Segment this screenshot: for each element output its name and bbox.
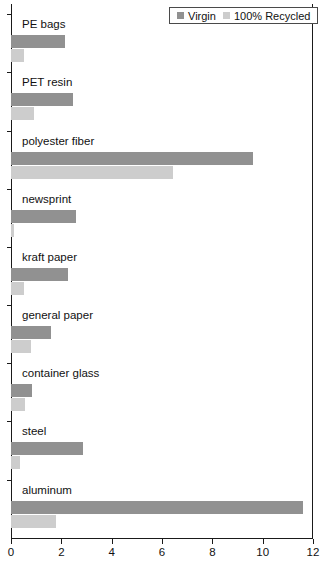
x-axis-tick [263, 539, 264, 544]
bar-group: kraft paper [11, 251, 313, 297]
bar-recycled [11, 340, 31, 353]
bar-recycled [11, 398, 25, 411]
bar-virgin [11, 501, 303, 514]
y-axis-tick [7, 189, 11, 190]
x-axis-ticks [11, 539, 313, 545]
bar-recycled [11, 49, 24, 62]
bar-group: newsprint [11, 193, 313, 239]
y-axis-tick [7, 305, 11, 306]
category-label: PE bags [22, 18, 65, 31]
bar-group: aluminum [11, 484, 313, 530]
legend-label-virgin: Virgin [188, 10, 216, 22]
chart-legend: Virgin 100% Recycled [169, 7, 318, 24]
x-axis-tick [11, 539, 12, 544]
y-axis-tick [7, 72, 11, 73]
y-axis-tick [7, 131, 11, 132]
bar-virgin [11, 210, 76, 223]
y-axis-tick [7, 14, 11, 15]
category-label: steel [22, 425, 46, 438]
y-axis-tick [7, 363, 11, 364]
x-axis-tick [313, 539, 314, 544]
x-axis-tick [61, 539, 62, 544]
bar-recycled [11, 224, 14, 237]
bar-virgin [11, 93, 73, 106]
category-label: newsprint [22, 193, 71, 206]
x-axis-tick-label: 4 [108, 546, 114, 558]
bar-group: PET resin [11, 76, 313, 122]
x-axis-tick-label: 10 [256, 546, 269, 558]
x-axis-tick [212, 539, 213, 544]
x-axis-tick-label: 8 [209, 546, 215, 558]
category-label: PET resin [22, 76, 72, 89]
y-axis-tick [7, 421, 11, 422]
legend-swatch-virgin [177, 12, 184, 19]
bar-virgin [11, 326, 51, 339]
category-label: polyester fiber [22, 135, 94, 148]
bar-virgin [11, 35, 65, 48]
plot-area: PE bagsPET resinpolyester fibernewsprint… [11, 4, 313, 539]
bar-group: general paper [11, 309, 313, 355]
bar-virgin [11, 442, 83, 455]
x-axis-tick-label: 0 [8, 546, 14, 558]
category-label: container glass [22, 367, 99, 380]
bar-recycled [11, 456, 20, 469]
x-axis-tick [112, 539, 113, 544]
bar-virgin [11, 268, 68, 281]
bar-group: PE bags [11, 18, 313, 64]
bar-recycled [11, 282, 24, 295]
legend-entry-virgin: Virgin [177, 10, 216, 22]
x-axis-tick-labels: 024681012 [0, 546, 328, 564]
x-axis-tick-label: 2 [58, 546, 64, 558]
legend-label-recycled: 100% Recycled [234, 10, 310, 22]
bar-group: polyester fiber [11, 135, 313, 181]
bar-recycled [11, 515, 56, 528]
legend-entry-recycled: 100% Recycled [223, 10, 310, 22]
legend-swatch-recycled [223, 12, 230, 19]
bar-virgin [11, 384, 32, 397]
bar-recycled [11, 166, 173, 179]
x-axis-tick [162, 539, 163, 544]
x-axis-tick-label: 6 [159, 546, 165, 558]
y-axis-tick [7, 480, 11, 481]
bar-group: steel [11, 425, 313, 471]
bar-chart-figure: PE bagsPET resinpolyester fibernewsprint… [0, 0, 328, 571]
category-label: general paper [22, 309, 93, 322]
bar-group: container glass [11, 367, 313, 413]
category-label: kraft paper [22, 251, 77, 264]
y-axis-tick [7, 247, 11, 248]
x-axis-tick-label: 12 [307, 546, 320, 558]
bar-virgin [11, 152, 253, 165]
category-label: aluminum [22, 484, 72, 497]
bar-recycled [11, 107, 34, 120]
